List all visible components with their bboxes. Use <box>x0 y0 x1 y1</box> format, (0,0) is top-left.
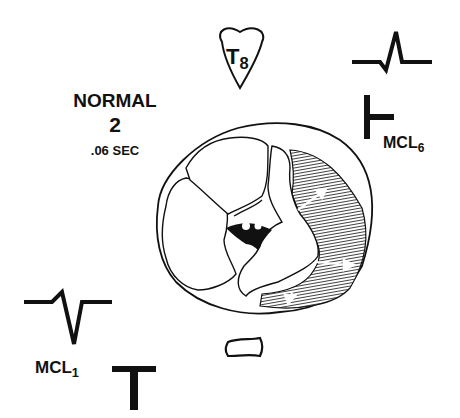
lead-mcl1-label: MCL1 <box>35 358 79 380</box>
rhythm-label: NORMAL <box>60 90 170 112</box>
ecg-mcl6-icon <box>352 32 432 70</box>
vertebra-label: T8 <box>226 44 249 73</box>
lead-subscript: 1 <box>72 365 79 380</box>
lead-name: MCL <box>383 134 418 151</box>
vertebra-subscript: 8 <box>239 54 248 72</box>
t-vector-mcl1-icon <box>112 366 156 410</box>
heart-cross-section <box>157 123 373 313</box>
rhythm-number: 2 <box>60 113 170 137</box>
lead-name: MCL <box>35 358 72 377</box>
vertebra-letter: T <box>226 44 239 69</box>
heart-diagram: T8 NORMAL 2 .06 SEC MCL6 MCL1 <box>0 0 460 418</box>
t-vector-mcl6-icon <box>364 95 394 139</box>
duration-label: .06 SEC <box>60 143 170 159</box>
ecg-mcl1-icon <box>24 292 112 344</box>
lead-subscript: 6 <box>418 141 425 155</box>
lead-mcl6-label: MCL6 <box>383 134 424 155</box>
sternum-icon <box>226 338 263 356</box>
